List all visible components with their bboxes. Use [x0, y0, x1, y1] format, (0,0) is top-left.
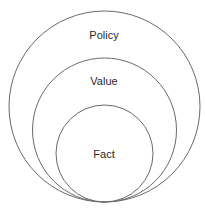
- label-fact: Fact: [93, 148, 114, 160]
- nested-circles-diagram: Policy Value Fact: [0, 0, 205, 208]
- label-value: Value: [90, 75, 117, 87]
- label-policy: Policy: [89, 29, 119, 41]
